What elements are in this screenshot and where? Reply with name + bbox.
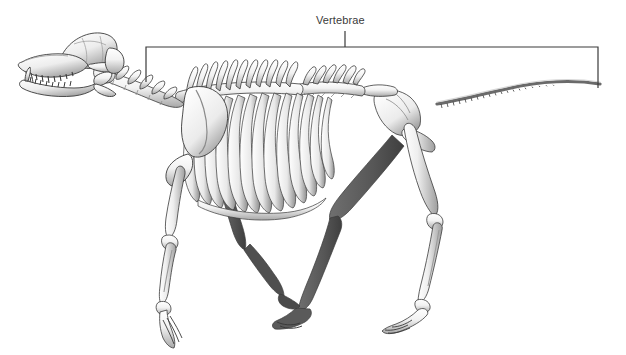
tail-spine [437, 82, 600, 104]
lumbar-spines [303, 65, 365, 85]
hind-paw-far [272, 308, 311, 329]
skull [18, 33, 124, 97]
figure-canvas: Vertebrae [0, 0, 626, 355]
forepaw-far [278, 294, 300, 309]
annotation-label-vertebrae: Vertebrae [316, 14, 365, 27]
lumbar-vertebrae [296, 65, 365, 98]
tibia-fibula-far [298, 216, 342, 310]
occipital [105, 48, 124, 73]
femur-far [329, 135, 404, 220]
skeleton-illustration [0, 0, 626, 355]
caudal-vertebrae [437, 80, 600, 108]
near-fore-limb [156, 166, 185, 348]
vertebrae-annotation [146, 31, 598, 88]
hyoid [94, 84, 116, 97]
radius-ulna-far [244, 244, 284, 296]
